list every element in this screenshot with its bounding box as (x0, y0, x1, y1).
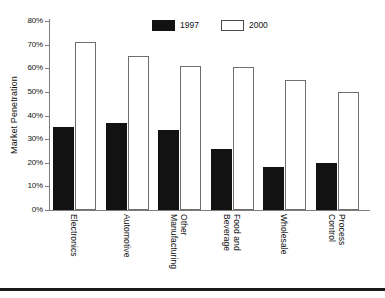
y-tick-label-row: 80% (0, 17, 43, 25)
y-tick-label: 80% (0, 17, 43, 25)
y-tick-label-row: 0% (0, 206, 43, 214)
y-tick-label-row: 20% (0, 159, 43, 167)
y-tick-mark (45, 186, 49, 187)
bar-2000-food-and-beverage (233, 67, 254, 210)
page-margin (0, 291, 385, 298)
y-tick-label: 10% (0, 182, 43, 190)
y-tick-label-row: 60% (0, 64, 43, 72)
y-tick-label: 0% (0, 206, 43, 214)
y-tick-label: 30% (0, 135, 43, 143)
legend-label: 1997 (180, 20, 199, 30)
y-tick-mark (45, 45, 49, 46)
bar-2000-wholesale (285, 80, 306, 210)
y-tick-label: 40% (0, 112, 43, 120)
y-tick-mark (45, 21, 49, 22)
x-category-label: Automotive (121, 214, 131, 258)
legend-swatch-2000 (221, 20, 244, 31)
bar-1997-process-control (316, 163, 337, 210)
legend-item-2000: 2000 (221, 20, 268, 31)
bar-1997-other-manufacturing (158, 130, 179, 210)
plot-area: 80%70%60%50%40%30%20%10%0% Market Penetr… (0, 0, 385, 298)
bar-1997-food-and-beverage (211, 149, 232, 210)
x-category-label: Food and Beverage (222, 214, 241, 251)
y-tick-label: 60% (0, 64, 43, 72)
y-axis-title: Market Penetration (9, 55, 19, 175)
y-axis-line (49, 19, 50, 211)
y-tick-label-row: 10% (0, 182, 43, 190)
y-tick-mark (45, 68, 49, 69)
y-tick-label: 70% (0, 41, 43, 49)
y-tick-label: 20% (0, 159, 43, 167)
y-tick-label-row: 30% (0, 135, 43, 143)
x-category-label: Other Manufacturing (169, 214, 188, 269)
y-tick-label: 50% (0, 88, 43, 96)
legend-label: 2000 (249, 20, 268, 30)
y-tick-mark (45, 92, 49, 93)
x-category-label: Electronics (69, 214, 79, 257)
legend-swatch-1997 (152, 20, 175, 31)
bar-1997-electronics (53, 127, 74, 210)
y-tick-mark (45, 139, 49, 140)
y-tick-label-row: 70% (0, 41, 43, 49)
x-axis-line (49, 210, 370, 211)
legend-item-1997: 1997 (152, 20, 199, 31)
y-tick-mark (45, 210, 49, 211)
chart-figure: 80%70%60%50%40%30%20%10%0% Market Penetr… (0, 0, 385, 298)
bar-2000-electronics (75, 42, 96, 210)
y-tick-mark (45, 116, 49, 117)
y-tick-label-row: 50% (0, 88, 43, 96)
bar-1997-wholesale (263, 167, 284, 210)
chart-legend: 19972000 (152, 18, 268, 32)
bar-1997-automotive (106, 123, 127, 210)
bar-2000-process-control (338, 92, 359, 210)
x-category-label: Wholesale (279, 214, 289, 255)
x-category-label: Process Control (327, 214, 346, 245)
bar-2000-automotive (128, 56, 149, 210)
y-tick-label-row: 40% (0, 112, 43, 120)
y-tick-mark (45, 163, 49, 164)
bar-2000-other-manufacturing (180, 66, 201, 210)
